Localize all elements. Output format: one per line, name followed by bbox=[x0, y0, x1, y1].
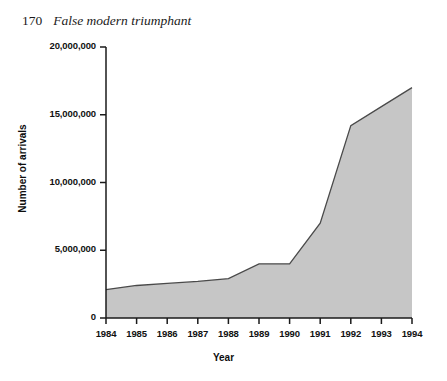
chart-canvas bbox=[0, 0, 447, 381]
y-tick-label: 15,000,000 bbox=[0, 108, 96, 119]
y-axis-title: Number of arrivals bbox=[17, 109, 28, 229]
y-tick-label: 20,000,000 bbox=[0, 40, 96, 51]
area-series-fill bbox=[106, 88, 412, 318]
plot-area bbox=[106, 88, 412, 318]
y-tick-label: 10,000,000 bbox=[0, 176, 96, 187]
y-axis-ticks bbox=[100, 47, 106, 318]
y-tick-label: 5,000,000 bbox=[0, 243, 96, 254]
y-tick-label: 0 bbox=[0, 311, 96, 322]
arrivals-area-chart: 05,000,00010,000,00015,000,00020,000,000… bbox=[0, 0, 447, 381]
x-tick-label: 1994 bbox=[392, 328, 432, 339]
x-axis-title: Year bbox=[0, 352, 447, 363]
x-axis-ticks bbox=[106, 318, 412, 324]
